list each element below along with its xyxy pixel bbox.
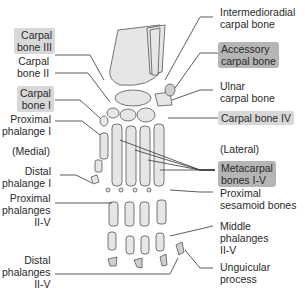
- label-proximal-sesamoid-bones: Proximal sesamoid bones: [220, 187, 296, 211]
- label-carpal-bone-ii: Carpal bone II: [17, 55, 49, 79]
- label-medial: (Medial): [12, 145, 50, 157]
- radius-highlight: [150, 28, 160, 75]
- label-middle-phalanges-ii-v: Middle phalanges II-V: [220, 220, 268, 256]
- label-intermedioradial-carpal-bone: Intermedioradial carpal bone: [220, 6, 295, 30]
- label-distal-phalanges-ii-v: Distal phalanges II-V: [2, 254, 50, 289]
- label-proximal-phalange-i: Proximal phalange I: [2, 113, 51, 137]
- label-ulnar-carpal-bone: Ulnar carpal bone: [220, 80, 275, 104]
- label-lateral: (Lateral): [220, 143, 259, 155]
- label-carpal-bone-i: Carpal bone I: [17, 86, 54, 112]
- label-carpal-bone-iii: Carpal bone III: [14, 28, 55, 54]
- label-distal-phalange-i: Distal phalange I: [2, 165, 51, 189]
- label-proximal-phalanges-ii-v: Proximal phalanges II-V: [2, 192, 50, 228]
- label-accessory-carpal-bone: Accessory carpal bone: [218, 42, 279, 68]
- intermedioradial-carpal: [115, 90, 151, 106]
- label-unguicular-process: Unguicular process: [220, 261, 270, 285]
- label-metacarpal-bones-i-v: Metacarpal bones I-V: [218, 161, 276, 187]
- accessory-carpal: [165, 84, 175, 96]
- label-carpal-bone-iv: Carpal bone IV: [218, 111, 294, 125]
